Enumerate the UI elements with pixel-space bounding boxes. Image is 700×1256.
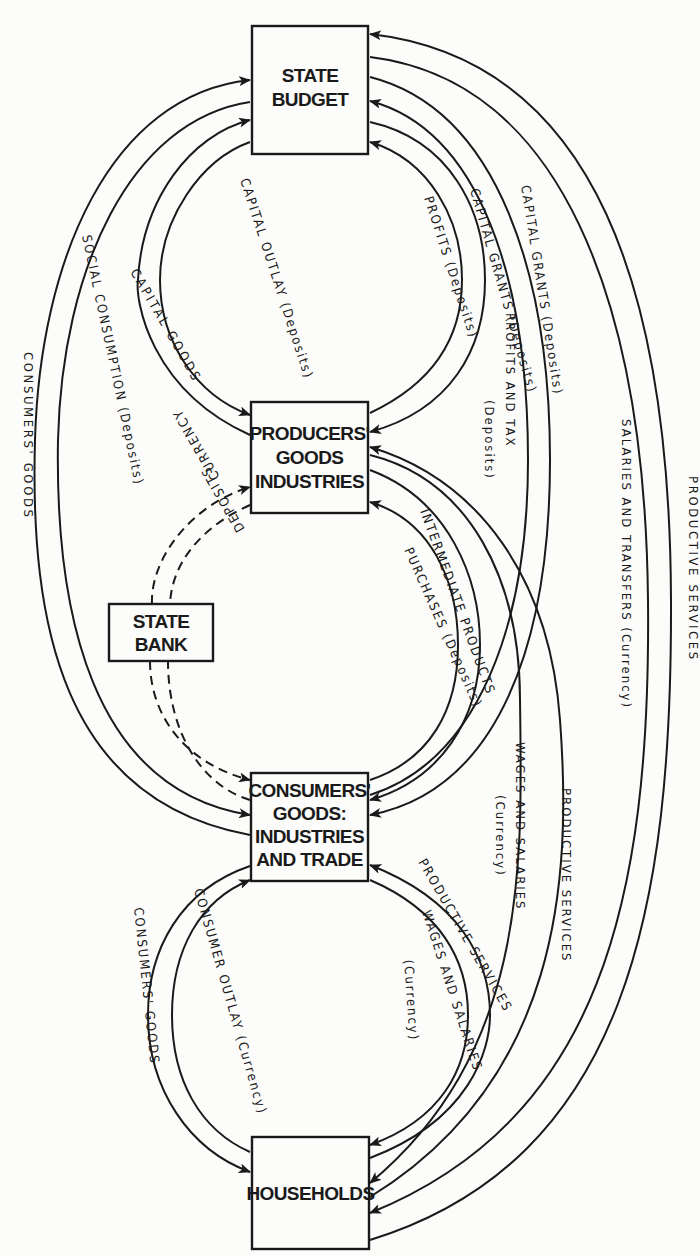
label-profits-and-tax-sub: (Deposits)	[482, 400, 497, 480]
node-label: STATE	[133, 611, 189, 632]
node-state-budget: STATE BUDGET	[252, 26, 368, 154]
flow-productive-services-producers	[370, 447, 563, 1197]
flow-capital-outlay	[160, 142, 250, 415]
node-label: BUDGET	[272, 89, 350, 110]
flow-capital-grants-inner	[370, 122, 485, 432]
label-profits-and-tax: PROFITS AND TAX	[503, 313, 518, 447]
node-households: HOUSEHOLDS	[246, 1137, 374, 1249]
label-wages-salaries-consumers-sub: (Currency)	[401, 959, 422, 1042]
label-consumers-goods-inner: CONSUMERS' GOODS	[131, 907, 162, 1066]
label-productive-services-producers: PRODUCTIVE SERVICES	[559, 788, 574, 962]
label-wages-salaries-producers-sub: (Currency)	[493, 795, 508, 877]
node-label: GOODS	[276, 447, 344, 468]
node-label: INDUSTRIES	[255, 826, 364, 847]
node-label: INDUSTRIES	[255, 471, 364, 492]
node-consumers-goods-industries: CONSUMERS' GOODS: INDUSTRIES AND TRADE	[248, 773, 370, 881]
label-wages-salaries-producers: WAGES AND SALARIES	[513, 742, 528, 911]
node-label: PRODUCERS'	[250, 423, 370, 444]
label-consumer-outlay: CONSUMER OUTLAY (Currency)	[191, 887, 270, 1117]
node-label: AND TRADE	[256, 849, 363, 870]
node-label: STATE	[282, 65, 338, 86]
label-wages-salaries-consumers: WAGES AND SALARIES	[419, 908, 485, 1073]
flow-diagram: STATE BUDGET PRODUCERS' GOODS INDUSTRIES…	[0, 0, 700, 1256]
node-state-bank: STATE BANK	[109, 604, 213, 661]
label-productive-services-outer: PRODUCTIVE SERVICES	[686, 476, 700, 662]
node-producers-goods-industries: PRODUCERS' GOODS INDUSTRIES	[250, 402, 370, 513]
node-label: CONSUMERS'	[248, 780, 370, 801]
flow-currency	[152, 487, 250, 604]
label-capital-outlay: CAPITAL OUTLAY (Deposits)	[237, 176, 316, 381]
node-label: GOODS:	[273, 803, 346, 824]
flow-bank-to-consumers	[150, 661, 250, 780]
node-label: BANK	[135, 634, 188, 655]
flow-capital-goods	[138, 120, 250, 435]
label-consumers-goods-outer: CONSUMERS' GOODS	[21, 352, 36, 520]
label-profits-deposits: PROFITS (Deposits)	[421, 194, 481, 340]
flow-consumers-to-bank	[168, 661, 250, 800]
label-salaries-transfers: SALARIES AND TRANSFERS (Currency)	[619, 419, 634, 709]
label-deposits-upper: DEPOSITS	[198, 463, 248, 535]
node-label: HOUSEHOLDS	[246, 1183, 374, 1204]
